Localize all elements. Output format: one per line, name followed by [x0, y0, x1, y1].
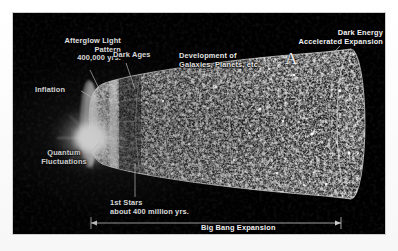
label-marker-a: A [285, 50, 297, 67]
label-dark-energy-accelerated-expansion: Dark Energy Accelerated Expansion [263, 29, 383, 46]
label-quantum-fluctuations: Quantum Fluctuations [25, 149, 103, 166]
figure-root: Afterglow Light Pattern 400,000 yrs. Dar… [0, 0, 398, 251]
label-development-of-galaxies: Development of Galaxies, Planets, etc. [179, 52, 271, 69]
label-inflation: Inflation [35, 86, 95, 95]
label-dark-ages: Dark Ages [113, 51, 173, 60]
diagram-panel: Afterglow Light Pattern 400,000 yrs. Dar… [13, 13, 385, 234]
label-first-stars: 1st Stars about 400 million yrs. [110, 199, 230, 216]
label-big-bang-expansion: Big Bang Expansion [201, 224, 331, 233]
label-afterglow-light-pattern: Afterglow Light Pattern 400,000 yrs. [29, 37, 121, 63]
